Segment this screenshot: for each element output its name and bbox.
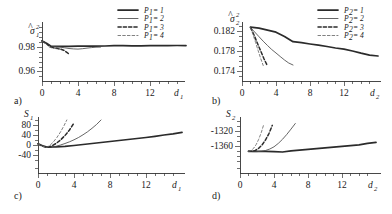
svg-text:1: 1 xyxy=(30,114,33,121)
x-ticklabel-3: 12 xyxy=(141,180,151,190)
x-axis-title: d 1 xyxy=(172,180,181,192)
curve-p2-3 xyxy=(251,28,268,67)
x-ticklabel-3: 12 xyxy=(145,88,155,98)
svg-text:= 4: = 4 xyxy=(153,31,164,40)
legend: P 1 = 1 P 1 = 2 P 1 = 3 P 1 = 4 xyxy=(118,6,164,43)
y-ticklabel-1: -1360 xyxy=(211,141,233,151)
y-ticklabel-1: 0.96 xyxy=(18,66,35,76)
curve-s2-2 xyxy=(249,124,296,152)
panel-c-plot: 80 40 0 -40 0 4 8 12 S 1 d 1 c) xyxy=(0,107,196,214)
y-axis-title: ^ σ 2 2 xyxy=(228,10,240,26)
curve-s2-3 xyxy=(249,125,273,151)
curve-s1-3 xyxy=(38,123,74,147)
svg-text:2: 2 xyxy=(374,185,378,192)
panel-d: -1320 -1360 0 4 8 12 S 2 d 2 d) xyxy=(196,107,392,214)
x-ticklabel-2: 8 xyxy=(306,180,311,190)
x-ticklabel-3: 12 xyxy=(339,88,349,98)
x-ticklabel-1: 4 xyxy=(272,180,277,190)
panel-letter-a: a) xyxy=(14,95,22,107)
y-ticklabel-1: 0.178 xyxy=(214,46,236,56)
x-ticklabel-2: 8 xyxy=(308,88,313,98)
y-ticklabel-0: 80 xyxy=(22,120,32,130)
x-ticklabel-0: 0 xyxy=(238,180,243,190)
curve-s2-4 xyxy=(249,124,264,151)
panel-b-plot: 0.182 0.178 0.174 0 4 8 12 ^ σ 2 2 d 2 b… xyxy=(196,0,392,107)
y-axis-title: ^ σ 1 2 xyxy=(28,22,40,38)
x-ticklabel-2: 8 xyxy=(108,180,113,190)
panel-b: 0.182 0.178 0.174 0 4 8 12 ^ σ 2 2 d 2 b… xyxy=(196,0,392,107)
svg-text:2: 2 xyxy=(376,93,380,100)
svg-text:S: S xyxy=(24,109,29,119)
curve-s2-1 xyxy=(249,142,377,152)
y-ticklabel-2: 0 xyxy=(26,140,31,150)
svg-text:1: 1 xyxy=(180,93,183,100)
figure-container: 0.98 0.96 0 4 8 12 ^ σ 1 2 d 1 a) xyxy=(0,0,392,214)
y-ticklabel-0: 0.98 xyxy=(18,42,35,52)
y-ticklabel-0: -1320 xyxy=(211,126,233,136)
svg-text:d: d xyxy=(174,88,179,98)
x-axis-title: d 2 xyxy=(368,180,378,192)
curve-s1-1 xyxy=(38,132,182,147)
panel-letter-c: c) xyxy=(14,190,22,202)
svg-text:2: 2 xyxy=(236,19,240,26)
x-axis-title: d 1 xyxy=(174,88,183,100)
svg-text:2: 2 xyxy=(232,114,236,121)
svg-text:= 4: = 4 xyxy=(353,31,364,40)
legend-entry-3: P 2 = 4 xyxy=(343,31,364,42)
y-ticklabel-2: 0.174 xyxy=(214,66,236,76)
x-axis-title: d 2 xyxy=(370,88,380,100)
y-axis-title: S 2 xyxy=(226,109,236,121)
curve-p1-1 xyxy=(42,41,186,47)
svg-text:2: 2 xyxy=(236,11,240,18)
x-ticklabel-3: 12 xyxy=(337,180,347,190)
curve-p2-4 xyxy=(251,28,264,66)
y-ticklabel-1: 40 xyxy=(22,130,32,140)
panel-a: 0.98 0.96 0 4 8 12 ^ σ 1 2 d 1 a) xyxy=(0,0,196,107)
x-ticklabel-0: 0 xyxy=(240,88,245,98)
panel-a-plot: 0.98 0.96 0 4 8 12 ^ σ 1 2 d 1 a) xyxy=(0,0,196,107)
svg-text:d: d xyxy=(172,180,177,190)
x-ticklabel-1: 4 xyxy=(274,88,279,98)
svg-text:d: d xyxy=(370,88,375,98)
y-ticklabel-0: 0.182 xyxy=(214,26,236,36)
y-ticklabel-3: -40 xyxy=(18,150,31,160)
svg-text:1: 1 xyxy=(36,31,39,38)
panel-letter-b: b) xyxy=(212,95,220,107)
svg-text:S: S xyxy=(226,109,231,119)
svg-text:1: 1 xyxy=(178,185,181,192)
svg-text:σ: σ xyxy=(30,26,35,36)
panel-letter-d: d) xyxy=(212,190,220,202)
legend-entry-3: P 1 = 4 xyxy=(143,31,164,42)
curve-s1-4 xyxy=(38,120,67,147)
x-ticklabel-0: 0 xyxy=(40,88,45,98)
x-ticklabel-1: 4 xyxy=(72,180,77,190)
panel-c: 80 40 0 -40 0 4 8 12 S 1 d 1 c) xyxy=(0,107,196,214)
panel-d-plot: -1320 -1360 0 4 8 12 S 2 d 2 d) xyxy=(196,107,392,214)
x-ticklabel-0: 0 xyxy=(36,180,41,190)
x-ticklabel-1: 4 xyxy=(76,88,81,98)
svg-text:σ: σ xyxy=(230,14,235,24)
x-ticklabel-2: 8 xyxy=(112,88,117,98)
svg-text:2: 2 xyxy=(36,23,40,30)
svg-text:d: d xyxy=(368,180,373,190)
legend: P 2 = 1 P 2 = 2 P 2 = 3 P 2 = 4 xyxy=(318,6,364,43)
